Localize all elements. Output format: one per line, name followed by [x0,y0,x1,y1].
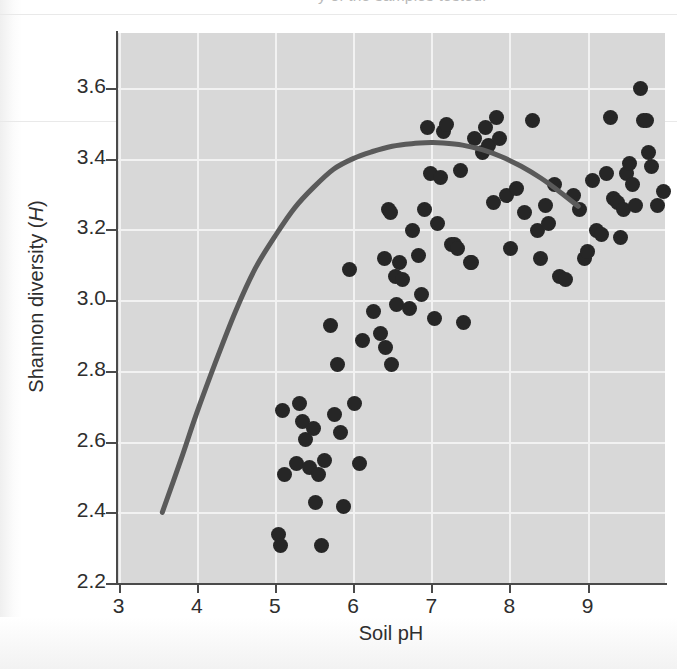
data-point [580,244,595,259]
data-point [603,110,618,125]
gridline-vertical [509,33,511,583]
x-axis-tick [119,583,121,593]
plot-area [117,33,665,583]
x-axis-tick-label: 5 [255,594,295,618]
data-point [395,272,410,287]
data-point [383,205,398,220]
data-point [373,326,388,341]
x-axis-tick [588,583,590,593]
gridline-vertical [119,33,121,583]
gridline-horizontal [117,159,665,161]
data-point [489,110,504,125]
x-axis-tick [509,583,511,593]
x-axis-tick [197,583,199,593]
y-axis-tick [106,583,117,585]
data-point [327,407,342,422]
data-point [456,315,471,330]
x-axis-tick [353,583,355,593]
data-point [585,173,600,188]
x-axis-tick [275,583,277,593]
data-point [613,230,628,245]
data-point [628,198,643,213]
data-point [405,223,420,238]
y-axis-tick-label: 2.4 [40,498,106,522]
data-point [273,538,288,553]
x-axis-tick-label: 4 [177,594,217,618]
data-point [541,216,556,231]
data-point [639,113,654,128]
data-point [314,538,329,553]
data-point [450,241,465,256]
data-point [503,241,518,256]
data-point [599,166,614,181]
data-point [558,272,573,287]
y-axis-tick [106,442,117,444]
y-axis-tick-label: 3.2 [40,215,106,239]
data-point [333,425,348,440]
data-point [633,81,648,96]
data-point [625,177,640,192]
data-point [525,113,540,128]
y-axis-line [116,31,118,585]
scatter-chart: Shannon diversity (H) Soil pH 34567892.2… [0,0,677,669]
data-point [492,131,507,146]
gridline-vertical [353,33,355,583]
data-point [533,251,548,266]
y-axis-tick-label: 2.2 [40,569,106,593]
x-axis-tick-label: 9 [568,594,608,618]
data-point [572,202,587,217]
gridline-vertical [197,33,199,583]
data-point [464,255,479,270]
y-axis-tick [106,159,117,161]
data-point [644,159,659,174]
data-point [414,287,429,302]
data-point [641,145,656,160]
y-axis-tick [106,300,117,302]
data-point [277,467,292,482]
y-axis-tick [106,88,117,90]
data-point [292,396,307,411]
y-axis-tick-label: 3.6 [40,74,106,98]
data-point [509,181,524,196]
y-axis-tick-label: 3.0 [40,286,106,310]
x-axis-tick-label: 7 [411,594,451,618]
x-axis-title: Soil pH [117,622,665,645]
data-point [402,301,417,316]
data-point [517,205,532,220]
gridline-vertical [431,33,433,583]
gridline-horizontal [117,88,665,90]
data-point [538,198,553,213]
data-point [323,318,338,333]
gridline-horizontal [117,229,665,231]
data-point [417,202,432,217]
data-point [433,170,448,185]
data-point [378,340,393,355]
data-point [352,456,367,471]
data-point [622,156,637,171]
data-point [355,333,370,348]
data-point [411,248,426,263]
data-point [650,198,665,213]
y-axis-tick-label: 3.4 [40,145,106,169]
data-point [306,421,321,436]
data-point [453,163,468,178]
y-axis-tick-label: 2.8 [40,357,106,381]
x-axis-tick-label: 6 [333,594,373,618]
data-point [342,262,357,277]
x-axis-tick [431,583,433,593]
data-point [430,216,445,231]
data-point [275,403,290,418]
data-point [317,453,332,468]
x-axis-tick-label: 3 [99,594,139,618]
gridline-horizontal [117,512,665,514]
gridline-vertical [275,33,277,583]
data-point [594,227,609,242]
data-point [366,304,381,319]
gridline-vertical [588,33,590,583]
figure-page: y of the samples tested. Shannon diversi… [0,0,677,669]
data-point [330,357,345,372]
data-point [439,117,454,132]
data-point [656,184,671,199]
data-point [347,396,362,411]
data-point [547,177,562,192]
